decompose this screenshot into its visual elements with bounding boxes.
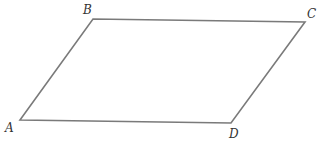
vertex-label-c: C: [307, 7, 316, 21]
vertex-label-b: B: [82, 3, 92, 17]
vertex-label-a: A: [4, 121, 14, 135]
parallelogram-diagram: A B C D: [0, 0, 318, 141]
vertex-label-d: D: [228, 127, 239, 141]
parallelogram-abcd: [20, 19, 305, 123]
